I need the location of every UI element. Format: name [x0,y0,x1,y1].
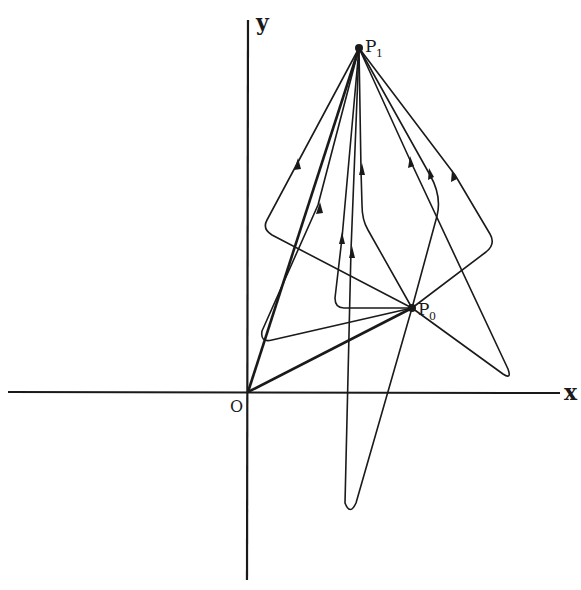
x-axis-label: x [564,379,578,405]
path-diagram: y x O P 1 P 0 [0,0,581,590]
arrow-icon [428,168,434,180]
arrow-icon [359,163,365,175]
point-p1-label: P 1 [365,36,383,60]
y-axis [247,20,248,580]
paths [262,48,510,510]
arrow-icon [349,246,355,258]
point-p0-marker [408,304,416,312]
path-g [359,48,509,376]
path-e [359,48,412,308]
svg-text:1: 1 [376,47,383,60]
svg-text:0: 0 [429,310,436,323]
axes [8,20,560,580]
path-h [359,48,492,308]
x-axis [8,392,560,393]
svg-text:P: P [418,299,429,319]
path-f [359,48,438,308]
y-axis-label: y [255,9,270,35]
svg-text:P: P [365,36,376,56]
origin-label: O [230,397,243,416]
vector-o-p0 [248,308,412,392]
point-p1-marker [355,44,363,52]
arrow-icon [339,232,345,244]
